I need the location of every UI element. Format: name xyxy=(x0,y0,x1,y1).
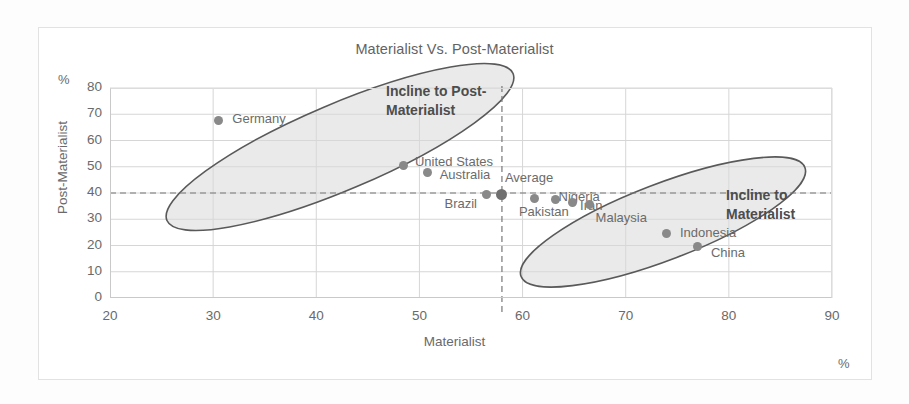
incline-to-post-materialist: Incline to Post- Materialist xyxy=(386,82,486,120)
data-point-label-brazil: Brazil xyxy=(444,196,477,211)
incline-to-materialist: Incline to Materialist xyxy=(726,186,795,224)
data-point-label-malaysia: Malaysia xyxy=(596,210,647,225)
data-point-iran[interactable] xyxy=(568,198,577,207)
y-tick-70: 70 xyxy=(72,105,102,120)
y-tick-60: 60 xyxy=(72,132,102,147)
data-point-label-germany: Germany xyxy=(232,111,285,126)
y-tick-10: 10 xyxy=(72,263,102,278)
y-axis-unit: % xyxy=(58,72,70,87)
chart-image: Materialist Vs. Post-Materialist % % Pos… xyxy=(0,0,909,404)
x-tick-20: 20 xyxy=(90,308,130,323)
x-tick-70: 70 xyxy=(606,308,646,323)
data-point-label-indonesia: Indonesia xyxy=(680,225,736,240)
data-point-label-pakistan: Pakistan xyxy=(519,204,569,219)
data-point-brazil[interactable] xyxy=(482,190,491,199)
x-tick-30: 30 xyxy=(193,308,233,323)
data-point-label-australia: Australia xyxy=(440,167,491,182)
y-tick-50: 50 xyxy=(72,158,102,173)
x-tick-80: 80 xyxy=(709,308,749,323)
y-tick-80: 80 xyxy=(72,79,102,94)
y-axis-title: Post-Materialist xyxy=(55,88,70,248)
y-tick-30: 30 xyxy=(72,210,102,225)
x-tick-40: 40 xyxy=(296,308,336,323)
x-tick-50: 50 xyxy=(399,308,439,323)
data-point-australia[interactable] xyxy=(423,168,432,177)
x-axis-title: Materialist xyxy=(0,334,909,349)
y-tick-20: 20 xyxy=(72,237,102,252)
x-axis-unit: % xyxy=(838,356,850,371)
y-tick-0: 0 xyxy=(72,289,102,304)
y-tick-40: 40 xyxy=(72,184,102,199)
x-tick-90: 90 xyxy=(812,308,852,323)
x-tick-60: 60 xyxy=(503,308,543,323)
data-point-label-china: China xyxy=(711,245,745,260)
chart-title: Materialist Vs. Post-Materialist xyxy=(0,41,909,57)
data-point-label-average: Average xyxy=(505,170,553,185)
